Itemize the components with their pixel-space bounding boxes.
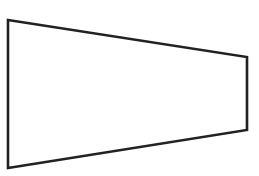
trapezoid-shape (8, 20, 247, 168)
trapezoid-diagram (0, 0, 259, 176)
diagram-canvas (0, 0, 259, 176)
